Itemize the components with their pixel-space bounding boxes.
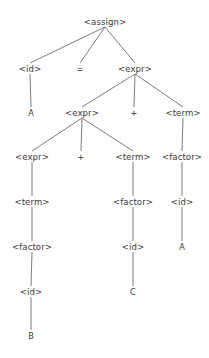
tree-edge — [80, 27, 105, 63]
tree-edge — [82, 118, 133, 151]
tree-edge — [32, 118, 82, 151]
tree-node-n7: <term> — [165, 109, 200, 118]
tree-edge — [134, 74, 135, 107]
tree-node-n8: <expr> — [15, 153, 49, 162]
tree-node-n1: <id> — [19, 65, 41, 74]
tree-node-n4: A — [28, 109, 34, 117]
tree-node-n18: <id> — [20, 288, 42, 297]
tree-node-n10: <term> — [115, 153, 150, 162]
tree-node-n20: B — [28, 332, 34, 340]
tree-edge — [82, 74, 135, 107]
tree-node-n3: <expr> — [118, 65, 152, 74]
tree-node-n9: + — [77, 153, 84, 162]
tree-edge — [135, 74, 183, 107]
tree-node-n13: <factor> — [113, 198, 153, 207]
tree-edge — [30, 27, 105, 63]
tree-node-n11: <factor> — [162, 153, 202, 162]
tree-edge — [81, 118, 82, 151]
tree-edge — [30, 74, 31, 107]
parse-tree-diagram: <assign><id>=<expr>A<expr>+<term><expr>+… — [0, 0, 209, 358]
tree-edge — [31, 252, 32, 286]
tree-node-n6: + — [130, 109, 137, 118]
tree-node-n14: <id> — [171, 198, 193, 207]
tree-edge-layer — [0, 0, 209, 358]
tree-node-n15: <factor> — [12, 243, 52, 252]
tree-edge — [182, 118, 183, 151]
tree-node-n16: <id> — [122, 243, 144, 252]
tree-edge — [105, 27, 135, 63]
tree-node-n12: <term> — [14, 198, 49, 207]
tree-node-n19: C — [130, 288, 136, 296]
tree-node-n17: A — [179, 243, 185, 251]
tree-node-n2: = — [76, 65, 83, 74]
tree-node-n0: <assign> — [84, 18, 126, 27]
tree-node-n5: <expr> — [65, 109, 99, 118]
